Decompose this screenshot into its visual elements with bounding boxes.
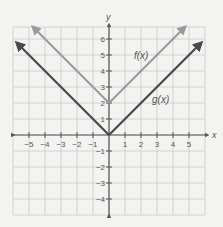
x-tick-label: 2 [139,140,144,149]
y-axis-label: y [105,12,111,22]
x-axis-label: x [211,130,217,140]
y-tick-label: 6 [101,35,106,44]
f-label: f(x) [134,50,148,61]
x-tick-label: −3 [56,140,66,149]
y-tick-label: −1 [96,147,106,156]
y-tick-label: 2 [101,99,106,108]
coordinate-plane: −5−4−3−2−112345−4−3−2−1123456 x y f(x) g… [0,0,223,227]
abs-value-graph: −5−4−3−2−112345−4−3−2−1123456 x y f(x) g… [0,0,223,227]
y-tick-label: 4 [101,67,106,76]
x-tick-label: 5 [187,140,192,149]
y-tick-label: −4 [96,195,106,204]
tick-labels: −5−4−3−2−112345−4−3−2−1123456 [24,35,191,204]
y-tick-label: −2 [96,163,106,172]
axes [13,25,207,216]
x-tick-label: 1 [123,140,128,149]
x-tick-label: −2 [72,140,82,149]
g-label: g(x) [152,94,169,105]
y-tick-label: 5 [101,51,106,60]
y-tick-label: 1 [101,115,106,124]
x-tick-label: 3 [155,140,160,149]
x-tick-label: −4 [40,140,50,149]
x-tick-label: 4 [171,140,176,149]
y-tick-label: 3 [101,83,106,92]
x-tick-label: −5 [24,140,34,149]
y-tick-label: −3 [96,179,106,188]
